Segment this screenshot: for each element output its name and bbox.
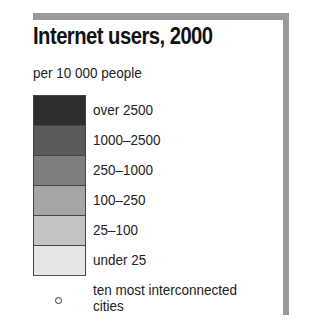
color-swatch [33,155,86,185]
legend-item-label: over 2500 [93,101,153,118]
color-swatch [33,95,86,125]
frame-top-border [33,13,289,20]
color-swatch [33,245,86,276]
legend-subtitle: per 10 000 people [33,64,142,81]
legend-item-label: 25–100 [93,221,138,238]
frame-right-border [283,13,289,315]
color-swatch [33,125,86,155]
city-legend-item: ten most interconnected cities [33,282,283,322]
legend-item-label: 100–250 [93,191,146,208]
legend-item-label: 1000–2500 [93,131,161,148]
city-label-line1: ten most interconnected [93,282,237,298]
legend-item-label: under 25 [93,251,146,268]
legend-title: Internet users, 2000 [33,23,213,50]
legend-item-label: 250–1000 [93,161,153,178]
color-swatch [33,215,86,245]
city-legend-label: ten most interconnected cities [93,282,237,314]
city-label-line2: cities [93,298,237,314]
open-circle-icon [55,297,62,304]
color-swatch [33,185,86,215]
